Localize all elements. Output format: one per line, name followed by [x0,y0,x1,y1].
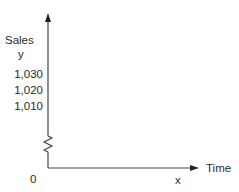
axes-graphic [0,0,239,192]
y-tick-1030: 1,030 [0,68,43,80]
y-variable-label: y [18,48,24,60]
y-axis-title: Sales [5,34,34,46]
y-axis-arrow-icon [45,13,51,22]
y-axis [44,20,52,168]
y-tick-label: 1,010 [14,100,43,112]
x-axis-title: Time [206,162,231,174]
y-tick-1010: 1,010 [0,100,43,112]
origin-label: 0 [30,173,36,185]
axis-break-icon [44,136,52,152]
x-axis-arrow-icon [190,165,199,171]
chart-area: Sales y 1,030 1,020 1,010 0 Time x [0,0,239,192]
y-tick-1020: 1,020 [0,84,43,96]
y-tick-label: 1,020 [14,84,43,96]
y-tick-label: 1,030 [14,68,43,80]
x-variable-label: x [175,174,181,186]
